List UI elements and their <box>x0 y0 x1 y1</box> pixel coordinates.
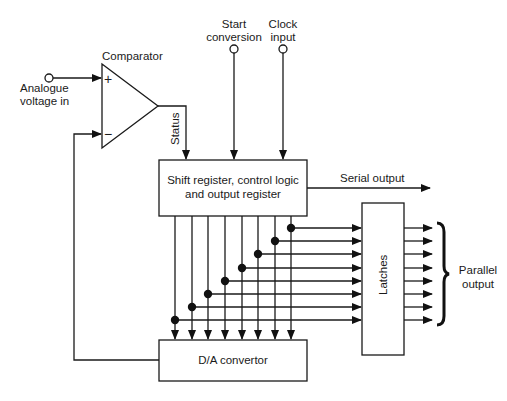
latches-label: Latches <box>377 254 389 295</box>
latches-block: Latches <box>362 203 404 355</box>
adc-block-diagram: Analogue voltage in Comparator + − Statu… <box>0 0 507 401</box>
junction-dot-icon <box>204 290 212 298</box>
status-label: Status <box>169 112 181 145</box>
dac-block: D/A convertor <box>159 340 307 381</box>
clock-terminal-icon <box>279 45 287 53</box>
serial-output-label: Serial output <box>340 172 405 184</box>
start-label-2: conversion <box>206 31 262 43</box>
analogue-input-terminal-icon <box>45 74 53 82</box>
feedback-line <box>74 134 159 360</box>
analogue-input-label-1: Analogue <box>20 82 69 94</box>
shift-register-block: Shift register, control logic and output… <box>159 160 307 216</box>
parallel-output-label: Parallel output <box>459 264 497 290</box>
junction-dot-icon <box>188 303 196 311</box>
comparator-label: Comparator <box>102 50 163 62</box>
junction-dot-icon <box>171 316 179 324</box>
shift-register-label-1: Shift register, control logic <box>167 174 299 186</box>
analogue-input-label-2: voltage in <box>20 95 69 107</box>
status-line: Status <box>158 106 186 159</box>
bit-lines <box>171 216 361 339</box>
start-label-1: Start <box>222 18 247 30</box>
analogue-input: Analogue voltage in <box>20 74 101 107</box>
comparator-plus: + <box>104 71 112 87</box>
junction-dot-icon <box>238 264 246 272</box>
junction-dot-icon <box>254 250 262 258</box>
comparator: Comparator + − <box>102 50 163 148</box>
clock-label-2: input <box>271 31 297 43</box>
clock-input: Clock input <box>269 18 298 159</box>
junction-dot-icon <box>271 237 279 245</box>
parallel-output-label-2: output <box>462 278 495 290</box>
start-conversion-input: Start conversion <box>206 18 262 159</box>
brace-icon <box>437 223 449 325</box>
parallel-output-lines <box>404 228 432 320</box>
junction-dot-icon <box>287 224 295 232</box>
serial-output: Serial output <box>307 172 430 188</box>
clock-label-1: Clock <box>269 18 298 30</box>
dac-label: D/A convertor <box>198 354 268 366</box>
parallel-output-label-1: Parallel <box>459 264 497 276</box>
shift-register-label-2: and output register <box>185 188 281 200</box>
start-terminal-icon <box>230 45 238 53</box>
comparator-minus: − <box>104 126 112 142</box>
junction-dot-icon <box>221 277 229 285</box>
